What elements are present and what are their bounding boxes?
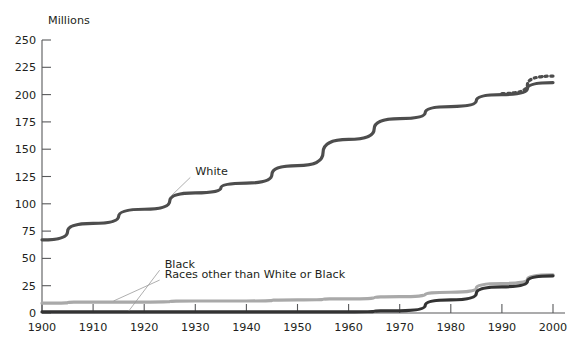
x-tick-label: 1900 — [28, 321, 56, 334]
x-tick-label: 2000 — [539, 321, 567, 334]
y-tick-label: 125 — [15, 171, 36, 184]
y-tick-label: 150 — [15, 143, 36, 156]
x-tick-label: 1960 — [334, 321, 362, 334]
x-tick-label: 1930 — [181, 321, 209, 334]
x-tick-label: 1940 — [232, 321, 260, 334]
series-annotations: WhiteBlackRaces other than White or Blac… — [114, 165, 346, 310]
chart-canvas: 0255075100125150175200225250 19001910192… — [0, 0, 568, 354]
y-tick-label: 25 — [22, 280, 36, 293]
x-tick-label: 1980 — [437, 321, 465, 334]
x-tick-label: 1920 — [130, 321, 158, 334]
y-tick-label: 250 — [15, 34, 36, 47]
x-tick-label: 1910 — [79, 321, 107, 334]
x-tick-label: 1970 — [385, 321, 413, 334]
series-label-white: White — [195, 165, 228, 178]
y-axis-title: Millions — [48, 14, 90, 27]
annotation-leader-line — [114, 280, 160, 301]
y-tick-label: 175 — [15, 116, 36, 129]
series-line-white — [42, 83, 553, 240]
y-tick-label: 50 — [22, 252, 36, 265]
y-tick-label: 75 — [22, 225, 36, 238]
series-label-races-other-than-white-or-black: Races other than White or Black — [165, 268, 346, 281]
x-tick-label: 1950 — [283, 321, 311, 334]
x-tick-label: 1990 — [488, 321, 516, 334]
y-tick-label: 200 — [15, 89, 36, 102]
y-axis: 0255075100125150175200225250 — [15, 34, 51, 320]
y-tick-label: 0 — [29, 307, 36, 320]
x-axis: 1900191019201930194019501960197019801990… — [28, 304, 567, 334]
y-tick-label: 225 — [15, 61, 36, 74]
y-tick-label: 100 — [15, 198, 36, 211]
population-line-chart: 0255075100125150175200225250 19001910192… — [0, 0, 568, 354]
